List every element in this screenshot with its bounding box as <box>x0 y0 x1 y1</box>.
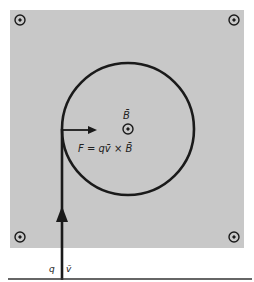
lorentz-force-diagram: B̄ F = qv̄ × B̄ q v̄ <box>0 0 254 282</box>
velocity-label: v̄ <box>66 264 72 274</box>
field-label: B̄ <box>123 109 130 121</box>
force-equation: F = qv̄ × B̄ <box>78 142 132 154</box>
charge-label: q <box>49 264 55 274</box>
